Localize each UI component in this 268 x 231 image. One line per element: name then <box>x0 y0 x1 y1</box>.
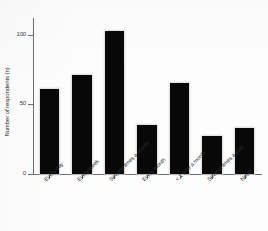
y-axis-title: Number of respondents (n) <box>2 50 12 154</box>
y-axis-tick-label: 100 <box>17 31 26 37</box>
bar <box>105 31 125 174</box>
plot-area <box>33 18 261 174</box>
y-axis-tick-label: 0 <box>23 170 26 176</box>
bar <box>72 75 92 174</box>
y-axis-tick: 0 <box>28 174 34 175</box>
bar <box>170 83 190 174</box>
bar <box>40 89 60 174</box>
y-axis-title-text: Number of respondents (n) <box>4 67 10 136</box>
y-axis-tick-label: 50 <box>20 100 26 106</box>
bar-chart-figure: Number of respondents (n) 0 50 100 Every… <box>0 0 268 231</box>
